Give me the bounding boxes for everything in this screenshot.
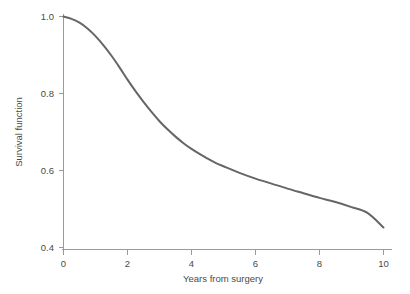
x-tick-label-6: 6 bbox=[253, 258, 258, 269]
x-tick-label-2: 2 bbox=[125, 258, 130, 269]
x-tick-label-10: 10 bbox=[378, 258, 389, 269]
survival-plot: 1.0 0.8 0.6 0.4 0 2 4 6 8 10 Years from … bbox=[0, 0, 410, 294]
survival-chart-figure: 1.0 0.8 0.6 0.4 0 2 4 6 8 10 Years from … bbox=[0, 0, 410, 294]
x-axis-title: Years from surgery bbox=[183, 273, 263, 284]
x-tick-marks bbox=[64, 250, 384, 255]
y-tick-labels: 1.0 0.8 0.6 0.4 bbox=[41, 11, 54, 253]
x-tick-labels: 0 2 4 6 8 10 bbox=[61, 258, 389, 269]
y-tick-label-2: 0.8 bbox=[41, 88, 54, 99]
y-tick-label-3: 0.6 bbox=[41, 165, 54, 176]
x-tick-label-8: 8 bbox=[317, 258, 322, 269]
x-tick-label-4: 4 bbox=[189, 258, 194, 269]
y-axis-title: Survival function bbox=[13, 97, 24, 167]
y-tick-label-1: 1.0 bbox=[41, 11, 54, 22]
survival-curve-line bbox=[64, 17, 384, 228]
y-tick-label-4: 0.4 bbox=[41, 242, 54, 253]
y-tick-marks bbox=[59, 17, 64, 248]
x-tick-label-0: 0 bbox=[61, 258, 66, 269]
